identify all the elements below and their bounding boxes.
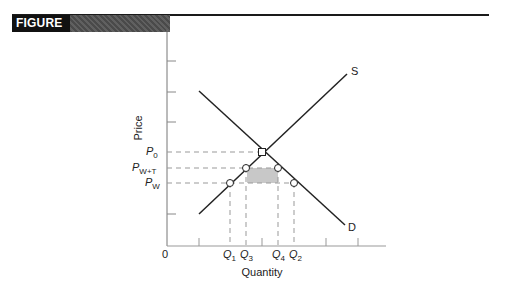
pwt-label: PW+T: [132, 161, 157, 176]
shaded-tariff-area: [247, 168, 278, 183]
supply-demand-chart: S D Price Quantity 0 P0 PW+T PW Q1 Q3 Q4…: [0, 0, 508, 304]
demand-curve: [199, 91, 345, 225]
supply-label: S: [351, 65, 358, 77]
price-labels: P0 PW+T PW: [132, 145, 160, 191]
y-ticks: [167, 61, 176, 214]
p0-label: P0: [146, 145, 158, 160]
equilibrium-marker: [259, 149, 266, 156]
x-axis-title: Quantity: [242, 266, 283, 278]
q2-label: Q2: [289, 248, 303, 263]
demand-label: D: [348, 221, 356, 233]
q1-label: Q1: [223, 248, 237, 263]
q3-label: Q3: [240, 248, 254, 263]
quantity-labels: Q1 Q3 Q4 Q2: [223, 248, 303, 263]
origin-label: 0: [162, 248, 168, 260]
supply-curve: [199, 74, 347, 214]
q4-label: Q4: [272, 248, 286, 263]
pw-label: PW: [145, 176, 160, 191]
y-axis-title: Price: [132, 115, 144, 140]
